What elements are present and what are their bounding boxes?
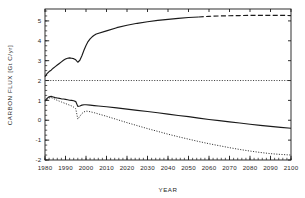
x-tick-label: 2100 [284,164,299,171]
x-tick-label: 2030 [140,164,155,171]
y-tick-label: 0 [38,116,42,123]
x-tick-label: 2070 [222,164,237,171]
y-tick-label: -2 [36,156,42,163]
x-tick-label: 2010 [99,164,114,171]
carbon-flux-chart-figure: 1980199020002010202020302040205020602070… [0,0,305,198]
y-tick-label: 2 [38,77,42,84]
x-tick-label: 2000 [79,164,94,171]
y-tick-label: 1 [38,97,42,104]
chart-canvas: 1980199020002010202020302040205020602070… [0,0,305,198]
y-tick-label: 3 [38,57,42,64]
x-tick-label: 2060 [202,164,217,171]
x-tick-label: 1990 [58,164,73,171]
x-axis-title: YEAR [158,186,177,193]
x-tick-label: 2020 [120,164,135,171]
x-tick-label: 2080 [243,164,258,171]
y-tick-label: 5 [38,17,42,24]
y-axis-title: CARBON FLUX [Gt C/yr] [6,45,13,125]
x-tick-label: 1980 [38,164,53,171]
y-tick-label: -1 [36,136,42,143]
y-tick-label: 4 [38,37,42,44]
x-tick-label: 2040 [161,164,176,171]
x-tick-label: 2050 [181,164,196,171]
x-tick-label: 2090 [263,164,278,171]
